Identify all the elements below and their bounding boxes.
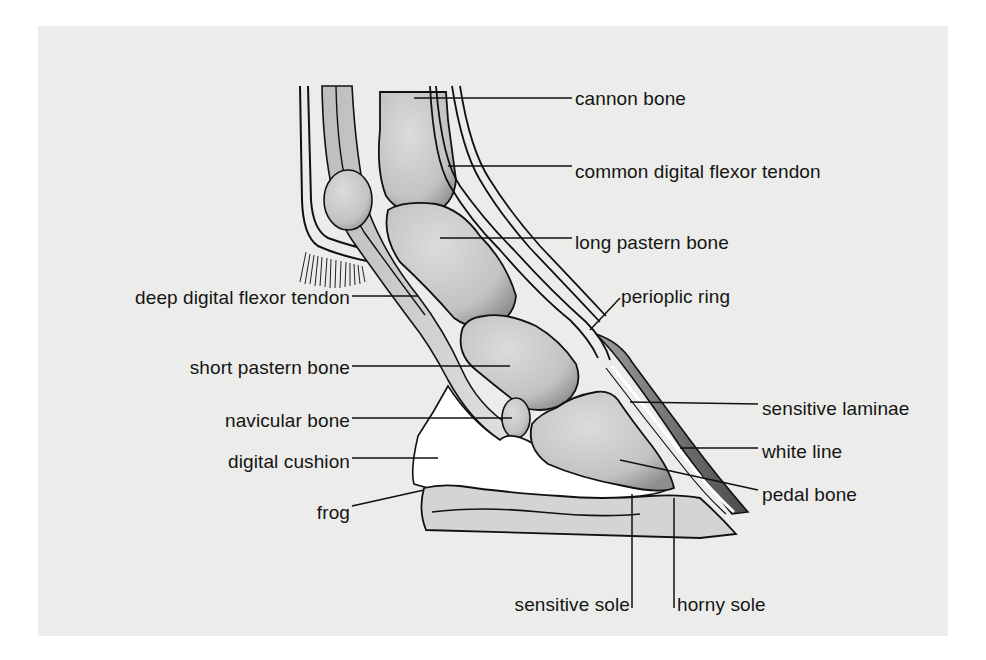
label-deep-digital-flexor-tendon: deep digital flexor tendon [60,287,350,309]
label-cannon-bone: cannon bone [575,88,686,110]
label-sensitive-sole: sensitive sole [430,594,630,616]
label-navicular-bone: navicular bone [60,410,350,432]
cannon-bone-shape [379,92,456,214]
label-white-line: white line [762,441,842,463]
label-sensitive-laminae: sensitive laminae [762,398,909,420]
sesamoid-bone [324,170,372,230]
label-long-pastern-bone: long pastern bone [575,232,729,254]
label-short-pastern-bone: short pastern bone [60,357,350,379]
short-pastern-bone-shape [461,315,579,410]
label-horny-sole: horny sole [677,594,766,616]
label-perioplic-ring: perioplic ring [621,286,730,308]
label-pedal-bone: pedal bone [762,484,857,506]
hoof-anatomy-illustration [0,0,986,660]
label-frog: frog [60,502,350,524]
label-common-digital-flexor-tendon: common digital flexor tendon [575,161,821,183]
label-digital-cushion: digital cushion [60,451,350,473]
